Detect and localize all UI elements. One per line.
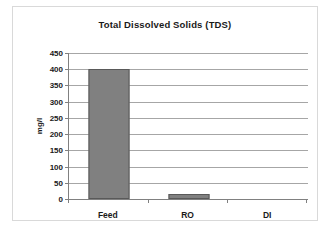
- category-slot: Feed: [68, 199, 148, 225]
- y-axis-label: 150: [50, 146, 63, 155]
- category-tick: [68, 199, 69, 203]
- category-label-di: DI: [227, 210, 307, 220]
- category-slot: RO: [148, 199, 228, 225]
- y-axis-label: 250: [50, 113, 63, 122]
- plot-area: 050100150200250300350400450: [68, 53, 308, 200]
- y-axis-label: 350: [50, 81, 63, 90]
- category-tick: [227, 199, 228, 203]
- category-label-feed: Feed: [68, 210, 148, 220]
- bar-feed[interactable]: [88, 69, 129, 199]
- y-axis-label: 400: [50, 65, 63, 74]
- y-axis-title: mg/l: [35, 118, 44, 134]
- y-axis-label: 100: [50, 162, 63, 171]
- bar-series: [69, 53, 308, 199]
- bar-slot: [149, 53, 229, 199]
- category-tick: [148, 199, 149, 203]
- category-label-ro: RO: [148, 210, 228, 220]
- y-axis-label: 0: [59, 195, 63, 204]
- category-axis: FeedRODI: [68, 199, 307, 225]
- category-slot: DI: [227, 199, 307, 225]
- chart-frame: Total Dissolved Solids (TDS) mg/l 050100…: [12, 6, 318, 221]
- bar-slot: [69, 53, 149, 199]
- chart-title: Total Dissolved Solids (TDS): [13, 19, 317, 30]
- category-tick: [306, 199, 307, 203]
- bar-slot: [228, 53, 308, 199]
- y-axis-label: 450: [50, 49, 63, 58]
- y-axis-label: 300: [50, 97, 63, 106]
- y-axis-label: 50: [54, 178, 63, 187]
- y-axis-label: 200: [50, 130, 63, 139]
